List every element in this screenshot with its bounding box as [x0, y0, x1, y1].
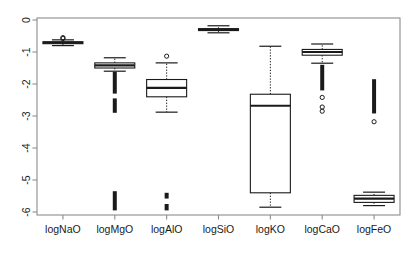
outlier-point [320, 95, 324, 99]
boxplot-group [43, 36, 83, 46]
boxplot-group [95, 58, 135, 211]
x-axis-category-label: logCaO [304, 223, 340, 235]
x-axis-category-label: logKO [256, 223, 285, 235]
y-axis-tick-label: -2 [20, 79, 32, 88]
boxplot-group [250, 46, 290, 207]
y-axis-tick-label: -3 [20, 111, 32, 120]
box-iqr [250, 94, 290, 193]
y-axis-tick-label: -4 [20, 143, 32, 152]
boxplot-group [354, 79, 394, 205]
outlier-point [320, 109, 324, 113]
x-axis-category-label: logAlO [151, 223, 183, 235]
x-axis-category-label: logFeO [357, 223, 391, 235]
y-axis-tick-label: -6 [20, 207, 32, 216]
x-axis-category-label: logSiO [203, 223, 235, 235]
y-axis-tick-label: -1 [20, 47, 32, 56]
boxplot-figure: 0-1-2-3-4-5-6logNaOlogMgOlogAlOlogSiOlog… [0, 0, 417, 255]
y-axis-tick-label: -5 [20, 175, 32, 184]
x-axis-category-label: logMgO [96, 223, 133, 235]
outlier-point [372, 120, 376, 124]
outlier-point [320, 105, 324, 109]
boxplot-group [147, 54, 187, 210]
x-axis-category-label: logNaO [45, 223, 81, 235]
y-axis-tick-label: 0 [20, 17, 32, 23]
boxplot-group [199, 26, 239, 33]
boxplot-group [302, 44, 342, 113]
outlier-point [165, 54, 169, 58]
plot-frame [37, 18, 400, 215]
boxplot-canvas: 0-1-2-3-4-5-6logNaOlogMgOlogAlOlogSiOlog… [0, 0, 417, 255]
